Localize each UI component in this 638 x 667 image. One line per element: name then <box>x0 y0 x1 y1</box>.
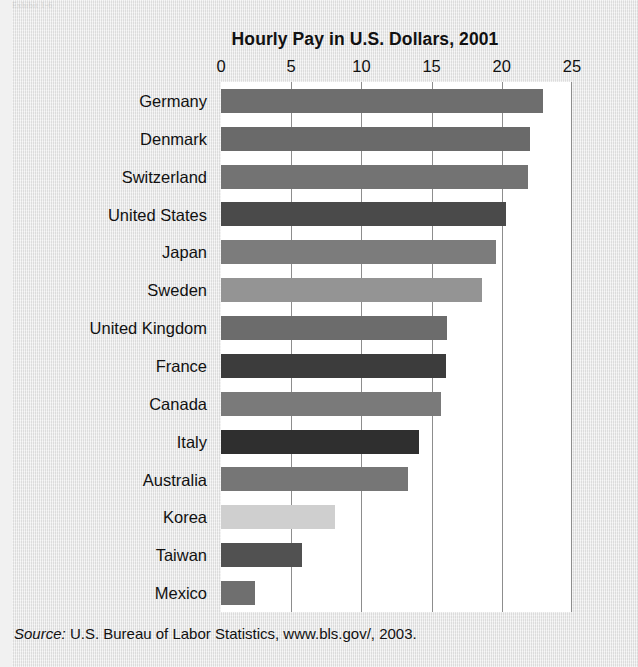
bar-switzerland <box>221 165 528 189</box>
bar-korea <box>221 505 335 529</box>
bar-mexico <box>221 581 255 605</box>
x-tick-label-20: 20 <box>482 57 522 76</box>
bar-france <box>221 354 446 378</box>
y-label-italy: Italy <box>0 432 207 452</box>
bar-row <box>221 309 572 347</box>
y-label-switzerland: Switzerland <box>0 167 207 187</box>
x-axis-tick-labels: 0510152025 <box>0 57 638 79</box>
bar-italy <box>221 430 419 454</box>
bar-row <box>221 574 572 612</box>
chart-title: Hourly Pay in U.S. Dollars, 2001 <box>150 29 580 50</box>
bar-united-kingdom <box>221 316 447 340</box>
bar-sweden <box>221 278 482 302</box>
bar-row <box>221 423 572 461</box>
plot-area <box>221 82 572 612</box>
bar-denmark <box>221 127 530 151</box>
bar-row <box>221 385 572 423</box>
chart-figure: Exhibit 1-6 Hourly Pay in U.S. Dollars, … <box>0 0 638 667</box>
bar-row <box>221 536 572 574</box>
bar-row <box>221 347 572 385</box>
scan-artifact-text: Exhibit 1-6 <box>12 1 142 10</box>
source-label: Source: <box>14 625 66 642</box>
y-label-france: France <box>0 356 207 376</box>
bar-row <box>221 82 572 120</box>
y-label-united-kingdom: United Kingdom <box>0 318 207 338</box>
source-note: Source: U.S. Bureau of Labor Statistics,… <box>14 625 417 642</box>
x-tick-label-5: 5 <box>271 57 311 76</box>
bar-row <box>221 158 572 196</box>
x-tick-label-10: 10 <box>341 57 381 76</box>
source-text: U.S. Bureau of Labor Statistics, www.bls… <box>70 625 417 642</box>
y-label-united-states: United States <box>0 205 207 225</box>
bar-taiwan <box>221 543 302 567</box>
bar-japan <box>221 240 496 264</box>
bar-row <box>221 271 572 309</box>
bar-row <box>221 196 572 234</box>
y-label-mexico: Mexico <box>0 583 207 603</box>
y-label-canada: Canada <box>0 394 207 414</box>
y-axis-category-labels: GermanyDenmarkSwitzerlandUnited StatesJa… <box>0 82 215 612</box>
bar-canada <box>221 392 441 416</box>
y-label-korea: Korea <box>0 507 207 527</box>
y-label-germany: Germany <box>0 91 207 111</box>
bar-row <box>221 461 572 499</box>
y-label-australia: Australia <box>0 470 207 490</box>
x-tick-label-15: 15 <box>412 57 452 76</box>
bar-united-states <box>221 202 506 226</box>
bar-row <box>221 120 572 158</box>
bar-australia <box>221 467 408 491</box>
y-label-taiwan: Taiwan <box>0 545 207 565</box>
y-label-japan: Japan <box>0 242 207 262</box>
y-label-denmark: Denmark <box>0 129 207 149</box>
bar-row <box>221 498 572 536</box>
bar-germany <box>221 89 543 113</box>
x-tick-label-25: 25 <box>552 57 592 76</box>
x-tick-label-0: 0 <box>201 57 241 76</box>
y-label-sweden: Sweden <box>0 280 207 300</box>
bar-row <box>221 233 572 271</box>
